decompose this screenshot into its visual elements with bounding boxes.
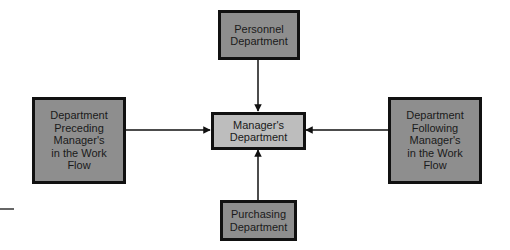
preceding-department-label: DepartmentPrecedingManager'sin the WorkF… [48, 109, 109, 172]
manager-department-label: Manager'sDepartment [228, 119, 289, 144]
purchasing-department-label: PurchasingDepartment [228, 208, 289, 233]
personnel-department-label: PersonnelDepartment [228, 23, 289, 48]
preceding-department-box: DepartmentPrecedingManager'sin the WorkF… [32, 97, 126, 184]
following-department-box: DepartmentFollowingManager'sin the WorkF… [388, 97, 482, 184]
manager-department-box: Manager'sDepartment [211, 112, 306, 150]
following-department-label: DepartmentFollowingManager'sin the WorkF… [404, 109, 465, 172]
personnel-department-box: PersonnelDepartment [218, 10, 300, 60]
purchasing-department-box: PurchasingDepartment [220, 200, 297, 241]
